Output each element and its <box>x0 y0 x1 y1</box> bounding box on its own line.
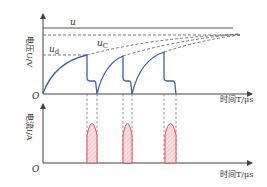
u-label: u <box>70 17 76 27</box>
voltage-x-axis-label: 时间T/μs <box>220 94 253 104</box>
voltage-waveform <box>43 52 176 94</box>
current-y-axis-label: 电流I/A <box>25 113 35 141</box>
current-origin-label: O <box>32 164 40 174</box>
current-pulse-2 <box>123 124 132 164</box>
voltage-origin-label: O <box>32 91 40 101</box>
current-panel: O 时间T/μs 电流I/A <box>25 104 253 179</box>
waveform-diagram: u ud uC O 时间T/μs 电压U/V O 时间T/μs 电流I/A <box>0 0 267 187</box>
uc-dashed-curve-3 <box>164 35 240 52</box>
voltage-y-axis-label: 电压U/V <box>25 36 35 67</box>
ud-label: ud <box>49 44 60 56</box>
current-x-axis-label: 时间T/μs <box>220 169 253 179</box>
current-pulse-1 <box>87 124 97 164</box>
uc-label: uC <box>97 38 108 50</box>
current-pulse-3 <box>165 124 176 164</box>
voltage-panel: u ud uC O 时间T/μs 电压U/V <box>25 14 253 104</box>
